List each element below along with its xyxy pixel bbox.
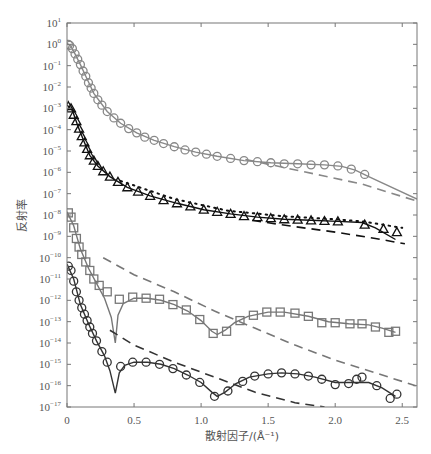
data-point xyxy=(103,288,111,296)
x-tick-label: 1.0 xyxy=(194,414,208,426)
axes: 00.51.01.52.02.510110010−110−210−310−410… xyxy=(39,16,417,426)
data-point xyxy=(393,390,401,398)
y-tick-label: 10−14 xyxy=(39,336,61,349)
y-tick-label: 10−10 xyxy=(39,251,61,264)
data-point xyxy=(379,224,388,232)
y-tick-label: 10−13 xyxy=(39,315,61,328)
plot-area xyxy=(64,40,417,407)
data-point xyxy=(345,380,353,388)
y-tick-label: 10−3 xyxy=(43,101,62,114)
y-tick-label: 10−1 xyxy=(43,59,62,72)
x-tick-label: 2.5 xyxy=(395,414,409,426)
series-gray-circles-top xyxy=(64,40,417,201)
data-point xyxy=(358,373,366,381)
y-tick-label: 10−2 xyxy=(43,80,62,93)
dashed-line xyxy=(103,258,416,386)
y-tick-label: 10−11 xyxy=(39,272,61,285)
data-point xyxy=(224,387,232,395)
y-tick-label: 10−4 xyxy=(43,123,62,136)
y-tick-label: 10−17 xyxy=(39,400,61,413)
series-gray-squares xyxy=(64,209,415,386)
series-black-circles-bottom xyxy=(64,262,401,407)
reflectivity-chart: 00.51.01.52.02.510110010−110−210−310−410… xyxy=(0,0,431,454)
y-tick-label: 10−12 xyxy=(39,293,61,306)
y-tick-label: 10−16 xyxy=(39,379,61,392)
x-axis-label: 散射因子/(Å⁻¹) xyxy=(205,429,279,443)
y-axis-label: 反射率 xyxy=(15,199,29,232)
x-tick-label: 0 xyxy=(64,414,70,426)
y-tick-label: 101 xyxy=(47,16,62,29)
fit-line xyxy=(67,43,417,199)
y-tick-label: 10−8 xyxy=(43,208,62,221)
fit-line xyxy=(67,105,396,239)
x-tick-label: 1.5 xyxy=(261,414,275,426)
x-tick-label: 0.5 xyxy=(127,414,141,426)
y-tick-label: 10−15 xyxy=(39,357,61,370)
data-point xyxy=(392,228,401,236)
y-tick-label: 10−7 xyxy=(43,187,62,200)
y-tick-label: 10−9 xyxy=(43,229,62,242)
y-tick-label: 10−6 xyxy=(43,165,62,178)
y-tick-label: 100 xyxy=(47,37,62,50)
y-tick-label: 10−5 xyxy=(43,144,62,157)
data-point xyxy=(115,295,123,303)
x-tick-label: 2.0 xyxy=(328,414,342,426)
